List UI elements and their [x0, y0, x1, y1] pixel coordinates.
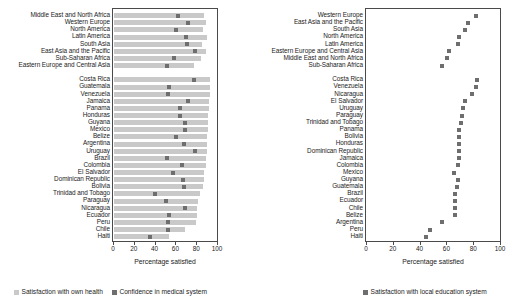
marker-medical-confidence	[164, 199, 168, 203]
marker-medical-confidence	[166, 220, 170, 224]
marker-medical-confidence	[178, 114, 182, 118]
bar-own-health	[114, 13, 204, 18]
marker-education-satisfaction	[440, 220, 444, 224]
right-x-axis: 020406080100	[365, 242, 501, 256]
marker-education-satisfaction	[457, 135, 461, 139]
marker-education-satisfaction	[455, 185, 459, 189]
legend-label: Satisfaction with own health	[22, 289, 103, 296]
row-label: Venezuela	[81, 91, 110, 97]
marker-medical-confidence	[174, 135, 178, 139]
legend-swatch-icon	[112, 290, 117, 295]
marker-education-satisfaction	[457, 35, 461, 39]
marker-education-satisfaction	[424, 235, 428, 239]
bar-own-health	[114, 99, 209, 104]
marker-education-satisfaction	[461, 106, 465, 110]
marker-education-satisfaction	[457, 128, 461, 132]
bar-own-health	[114, 170, 204, 175]
marker-medical-confidence	[153, 192, 157, 196]
marker-medical-confidence	[167, 213, 171, 217]
bar-own-health	[114, 234, 169, 239]
row-label: Dominican Republic	[307, 148, 363, 154]
marker-medical-confidence	[165, 156, 169, 160]
row-label: Uruguay	[86, 148, 110, 154]
row-label: Argentina	[83, 140, 110, 146]
legend-item: Confidence in medical system	[112, 289, 207, 296]
marker-education-satisfaction	[460, 114, 464, 118]
row-label: Ecuador	[340, 197, 363, 203]
bar-own-health	[114, 92, 210, 97]
bar-own-health	[114, 63, 194, 68]
marker-education-satisfaction	[456, 163, 460, 167]
bar-own-health	[114, 199, 198, 204]
left-legend: Satisfaction with own healthConfidence i…	[14, 289, 207, 296]
panel-education: Western EuropeEast Asia and the PacificS…	[255, 0, 511, 305]
right-plot-marks	[366, 9, 500, 241]
bar-own-health	[114, 220, 196, 225]
row-label: Venezuela	[334, 83, 363, 89]
bar-own-health	[114, 227, 185, 232]
axis-tick-label: 40	[408, 246, 432, 252]
row-label: Haiti	[350, 233, 363, 239]
bar-own-health	[114, 142, 207, 147]
legend-label: Confidence in medical system	[119, 289, 207, 296]
bar-own-health	[114, 85, 210, 90]
marker-medical-confidence	[186, 21, 190, 25]
marker-medical-confidence	[182, 142, 186, 146]
row-label: Nicaragua	[334, 91, 363, 97]
marker-education-satisfaction	[456, 178, 460, 182]
legend-item: Satisfaction with own health	[14, 289, 103, 296]
axis-tick-label: 0	[354, 246, 378, 252]
marker-education-satisfaction	[475, 78, 479, 82]
bar-own-health	[114, 120, 208, 125]
bar-own-health	[114, 163, 206, 168]
bar-own-health	[114, 56, 201, 61]
marker-medical-confidence	[176, 14, 180, 18]
marker-education-satisfaction	[447, 49, 451, 53]
right-axis-title: Percentage satisfied	[365, 258, 501, 265]
marker-medical-confidence	[182, 185, 186, 189]
left-category-labels: Middle East and North AfricaWestern Euro…	[0, 0, 110, 305]
marker-education-satisfaction	[440, 64, 444, 68]
marker-medical-confidence	[172, 56, 176, 60]
axis-tick-label: 60	[434, 246, 458, 252]
marker-education-satisfaction	[463, 28, 467, 32]
left-plot-marks	[113, 9, 217, 241]
marker-medical-confidence	[183, 206, 187, 210]
marker-medical-confidence	[178, 106, 182, 110]
bar-own-health	[114, 113, 208, 118]
marker-medical-confidence	[184, 35, 188, 39]
bar-own-health	[114, 156, 206, 161]
marker-education-satisfaction	[453, 213, 457, 217]
bar-own-health	[114, 20, 206, 25]
marker-medical-confidence	[148, 235, 152, 239]
marker-medical-confidence	[181, 178, 185, 182]
marker-medical-confidence	[174, 28, 178, 32]
marker-medical-confidence	[166, 92, 170, 96]
marker-education-satisfaction	[457, 149, 461, 153]
marker-education-satisfaction	[466, 21, 470, 25]
row-label: Eastern Europe and Central Asia	[18, 62, 110, 68]
left-plot-area	[112, 8, 218, 242]
row-label: Latin America	[72, 33, 110, 39]
marker-medical-confidence	[171, 171, 175, 175]
bar-own-health	[114, 127, 208, 132]
right-category-labels: Western EuropeEast Asia and the PacificS…	[255, 0, 363, 305]
row-label: Haiti	[97, 233, 110, 239]
marker-medical-confidence	[185, 42, 189, 46]
axis-tick-label: 100	[205, 246, 229, 252]
legend-label: Satisfaction with local education system	[371, 289, 487, 296]
marker-education-satisfaction	[445, 56, 449, 60]
right-plot-area	[365, 8, 501, 242]
legend-swatch-icon	[14, 290, 19, 295]
bar-own-health	[114, 134, 207, 139]
marker-education-satisfaction	[456, 42, 460, 46]
marker-education-satisfaction	[453, 206, 457, 210]
left-x-axis: 020406080100	[112, 242, 218, 256]
left-axis-title: Percentage satisfied	[112, 258, 218, 265]
marker-medical-confidence	[180, 163, 184, 167]
marker-education-satisfaction	[457, 142, 461, 146]
bar-own-health	[114, 35, 207, 40]
marker-education-satisfaction	[470, 92, 474, 96]
row-label: Paraguay	[83, 197, 110, 203]
marker-education-satisfaction	[474, 85, 478, 89]
